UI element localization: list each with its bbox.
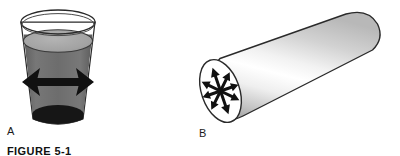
beaker-floor-ellipse [32, 105, 85, 126]
figure-container: A B FIGURE 5-1 [0, 0, 400, 156]
figure-caption: FIGURE 5-1 [7, 146, 72, 156]
panel-label-a: A [7, 126, 15, 137]
panel-b-cylinder [192, 12, 380, 128]
panel-a-beaker [21, 10, 95, 126]
panel-label-b: B [199, 128, 207, 139]
